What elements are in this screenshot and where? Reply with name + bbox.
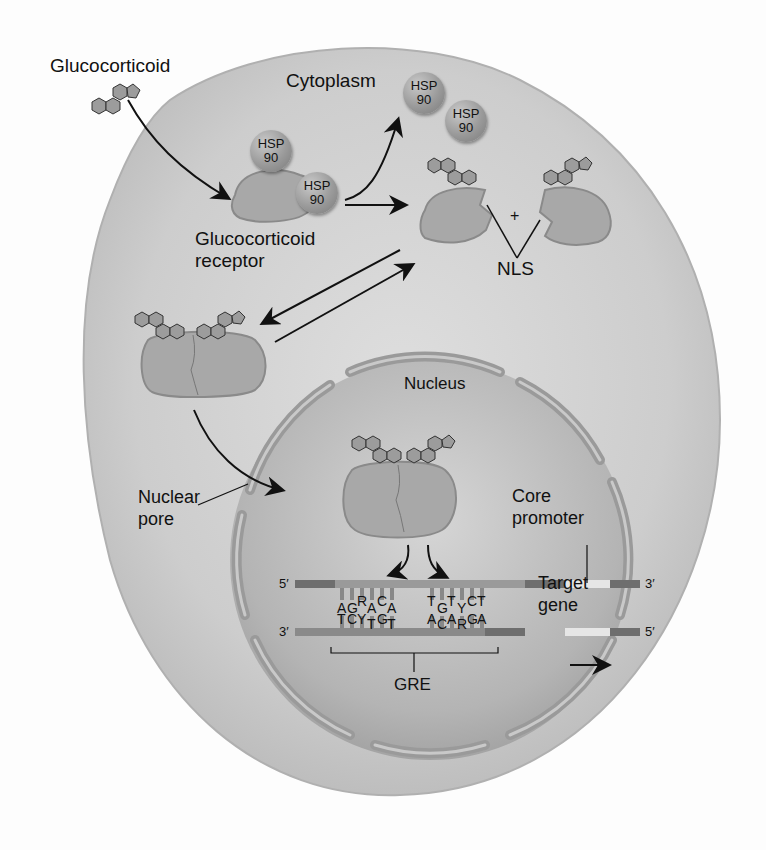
hsp90-number: 90	[310, 193, 324, 207]
base-top-right-3: Y	[457, 601, 466, 615]
label-core-promoter-line2: promoter	[512, 509, 584, 527]
base-bottom-left-1: C	[347, 612, 357, 626]
base-top-right-5: T	[477, 594, 486, 608]
hsp90-number: 90	[264, 151, 278, 165]
base-bottom-left-5: T	[387, 617, 396, 631]
label-nuclear-pore-line2: pore	[138, 510, 174, 528]
label-plus: +	[510, 207, 519, 225]
dna-bottom-strand	[295, 628, 640, 636]
label-target-gene-line1: Target	[538, 574, 588, 592]
dna-top-strand	[295, 580, 640, 588]
diagram-artwork	[0, 0, 766, 850]
base-bottom-right-0: A	[427, 612, 436, 626]
label-top-3prime: 3′	[645, 575, 655, 593]
base-bottom-left-0: T	[337, 612, 346, 626]
hsp90-bound-bottom: HSP 90	[296, 172, 338, 214]
hsp90-number: 90	[417, 93, 431, 107]
base-top-right-2: T	[447, 594, 456, 608]
hsp90-label: HSP	[453, 107, 480, 121]
base-bottom-left-2: Y	[357, 612, 366, 626]
base-top-right-4: C	[467, 594, 477, 608]
base-top-right-0: T	[427, 594, 436, 608]
hsp90-label: HSP	[411, 79, 438, 93]
hsp90-bound-top: HSP 90	[250, 130, 292, 172]
base-bottom-right-2: A	[447, 612, 456, 626]
base-top-left-5: A	[387, 601, 396, 615]
hsp90-released-top: HSP 90	[403, 72, 445, 114]
base-top-left-2: R	[357, 594, 367, 608]
base-bottom-right-3: R	[457, 617, 467, 631]
base-top-left-4: C	[377, 594, 387, 608]
label-cytoplasm: Cytoplasm	[286, 72, 376, 90]
hsp90-released-bottom: HSP 90	[445, 100, 487, 142]
label-bottom-3prime: 3′	[279, 623, 289, 641]
base-top-left-3: A	[367, 601, 376, 615]
label-glucocorticoid-receptor-line1: Glucocorticoid	[195, 230, 315, 248]
label-nls: NLS	[497, 260, 534, 278]
label-nuclear-pore-line1: Nuclear	[138, 488, 200, 506]
label-gre: GRE	[394, 676, 431, 694]
label-glucocorticoid: Glucocorticoid	[50, 57, 170, 75]
label-nucleus: Nucleus	[404, 375, 465, 393]
label-top-5prime: 5′	[279, 575, 289, 593]
label-target-gene-line2: gene	[538, 596, 578, 614]
base-bottom-left-3: T	[367, 617, 376, 631]
label-bottom-5prime: 5′	[645, 623, 655, 641]
figure-canvas: HSP 90 HSP 90 HSP 90 HSP 90 Glucocortico…	[0, 0, 766, 850]
base-bottom-right-5: A	[477, 612, 486, 626]
receptor-dimer-cytoplasm	[142, 332, 266, 397]
label-core-promoter-line1: Core	[512, 487, 551, 505]
label-glucocorticoid-receptor-line2: receptor	[195, 252, 265, 270]
hsp90-label: HSP	[304, 179, 331, 193]
base-bottom-right-1: C	[437, 617, 447, 631]
hsp90-label: HSP	[258, 137, 285, 151]
hsp90-number: 90	[459, 121, 473, 135]
